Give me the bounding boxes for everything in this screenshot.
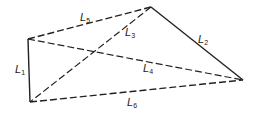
edge-L2 [151, 7, 243, 80]
edge-L3 [30, 7, 151, 102]
edge-L1 [28, 39, 30, 102]
label-L5: L5 [80, 11, 90, 24]
label-L2: L2 [198, 33, 208, 46]
label-L6: L6 [127, 96, 137, 109]
edge-L4 [28, 39, 243, 80]
label-L3: L3 [125, 26, 135, 39]
edge-L6 [30, 80, 243, 102]
quadrilateral-diagram: L1 L2 L3 L4 L5 L6 [0, 0, 253, 114]
label-L1: L1 [15, 63, 25, 76]
label-L4: L4 [143, 62, 153, 75]
